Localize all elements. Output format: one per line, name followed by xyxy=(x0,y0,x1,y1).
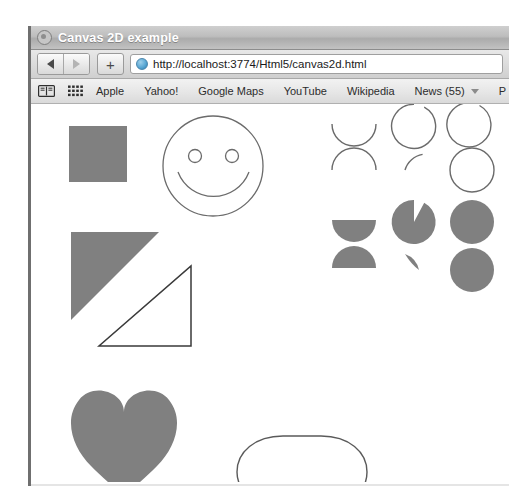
globe-icon xyxy=(136,58,148,70)
wedge-full-disc-2-fill xyxy=(450,248,494,292)
bookmark-label: P xyxy=(499,85,506,97)
bookmark-wikipedia[interactable]: Wikipedia xyxy=(347,85,395,97)
arrow-right-icon xyxy=(73,59,80,69)
globe-icon xyxy=(37,30,52,45)
bookmark-label: Yahoo! xyxy=(144,85,178,97)
arc-half-top-stroke xyxy=(332,148,376,170)
bookmark-apple[interactable]: Apple xyxy=(96,85,124,97)
bookmark-news[interactable]: News (55) xyxy=(415,85,479,97)
wedge-sliver-fill xyxy=(405,254,419,270)
wedge-full-disc-fill xyxy=(450,200,494,244)
filled-square xyxy=(69,126,127,182)
arc-300-stroke xyxy=(392,104,436,148)
filled-heart xyxy=(71,391,177,482)
chevron-down-icon xyxy=(471,89,479,94)
bookmark-google-maps[interactable]: Google Maps xyxy=(198,85,263,97)
forward-button[interactable] xyxy=(63,54,89,74)
window-title: Canvas 2D example xyxy=(58,31,179,45)
new-tab-button[interactable]: + xyxy=(97,53,124,75)
bookmark-label: News (55) xyxy=(415,85,465,97)
page-content xyxy=(31,104,509,482)
bookmark-yahoo[interactable]: Yahoo! xyxy=(144,85,178,97)
wedge-half-top-fill xyxy=(332,246,376,268)
bookmark-label: Google Maps xyxy=(198,85,263,97)
wedge-half-bottom-fill xyxy=(332,220,376,242)
arc-340-stroke xyxy=(447,104,491,147)
filled-triangle xyxy=(71,232,159,320)
canvas-2d-drawing xyxy=(31,104,509,482)
speech-bubble xyxy=(231,436,367,482)
url-text: http://localhost:3774/Html5/canvas2d.htm… xyxy=(153,58,367,70)
bookmark-label: YouTube xyxy=(284,85,327,97)
back-button[interactable] xyxy=(38,54,63,74)
bookmark-youtube[interactable]: YouTube xyxy=(284,85,327,97)
grid-apps-icon[interactable] xyxy=(68,85,83,97)
book-icon[interactable] xyxy=(38,85,55,97)
window-titlebar[interactable]: Canvas 2D example xyxy=(31,26,509,50)
navigation-buttons xyxy=(37,53,90,75)
arc-half-bottom-stroke xyxy=(332,124,376,146)
screenshot-root: Canvas 2D example + http://localhost:377… xyxy=(0,0,509,486)
smiley-face xyxy=(163,116,263,216)
wedge-300-fill xyxy=(392,200,436,244)
bookmark-label: Apple xyxy=(96,85,124,97)
bookmarks-bar: Apple Yahoo! Google Maps YouTube Wikiped… xyxy=(31,79,509,104)
arc-full-circle-stroke xyxy=(450,148,494,192)
bookmark-label: Wikipedia xyxy=(347,85,395,97)
browser-toolbar: + http://localhost:3774/Html5/canvas2d.h… xyxy=(31,50,509,79)
arc-quarter-stroke xyxy=(405,154,423,170)
bookmark-overflow[interactable]: P xyxy=(499,85,506,97)
address-bar[interactable]: http://localhost:3774/Html5/canvas2d.htm… xyxy=(130,54,503,74)
arrow-left-icon xyxy=(47,59,54,69)
browser-window: Canvas 2D example + http://localhost:377… xyxy=(28,26,509,486)
